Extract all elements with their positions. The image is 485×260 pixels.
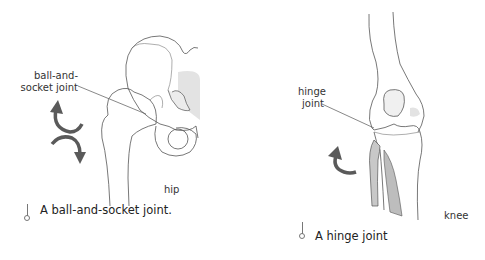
hip-label: hip	[164, 184, 179, 196]
ball-and-socket-callout: ball-and- socket joint	[32, 70, 78, 94]
counterclockwise-arrow-icon	[50, 100, 82, 132]
callout-line-2: joint	[298, 98, 324, 110]
pin-icon	[24, 204, 30, 222]
hip-bone-illustration	[0, 0, 240, 260]
hinge-joint-callout: hinge joint	[298, 86, 324, 110]
knee-caption: A hinge joint	[315, 229, 388, 243]
pin-icon	[299, 222, 305, 240]
hip-caption: A ball-and-socket joint.	[40, 203, 172, 217]
callout-line-2: socket joint	[10, 82, 78, 94]
clockwise-arrow-icon	[52, 137, 86, 164]
callout-line-1: ball-and-	[32, 70, 78, 82]
callout-line-1: hinge	[298, 86, 324, 98]
flex-arrow-icon	[328, 146, 356, 173]
hip-panel: ball-and- socket joint hip A ball-and-so…	[0, 0, 240, 260]
knee-label: knee	[444, 210, 468, 222]
knee-panel: hinge joint knee A hinge joint	[240, 0, 485, 260]
